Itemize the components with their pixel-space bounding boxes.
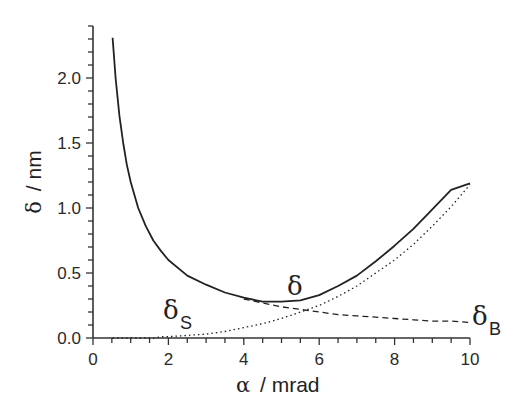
y-tick-label: 1.5: [57, 134, 81, 153]
x-tick-label: 0: [88, 350, 97, 369]
chart-canvas: 02468100.00.51.01.52.0 δ δ S δ B α / mra…: [0, 0, 524, 417]
y-tick-label: 1.0: [57, 199, 81, 218]
x-axis-title-symbol: α: [236, 373, 250, 397]
x-tick-label: 2: [164, 350, 173, 369]
y-axis-title-symbol: δ: [22, 201, 46, 214]
x-tick-label: 6: [314, 350, 323, 369]
delta-s-label: δ: [163, 295, 179, 325]
x-tick-label: 10: [461, 350, 480, 369]
y-axis-title-unit: / nm: [22, 150, 45, 191]
delta-b-label: δ: [472, 301, 488, 331]
x-axis-title: α / mrad: [236, 373, 320, 397]
y-axis-title: δ / nm: [22, 150, 46, 213]
axes: 02468100.00.51.01.52.0: [57, 26, 479, 369]
x-tick-label: 4: [239, 350, 248, 369]
x-axis-title-unit: / mrad: [260, 373, 320, 396]
x-tick-label: 8: [390, 350, 399, 369]
y-tick-label: 2.0: [57, 69, 81, 88]
y-tick-label: 0.0: [57, 329, 81, 348]
delta-b-subscript: B: [489, 319, 501, 339]
curve-delta: [113, 38, 470, 302]
delta-s-subscript: S: [180, 313, 192, 333]
delta-curve-label: δ: [287, 271, 303, 301]
y-tick-label: 0.5: [57, 264, 81, 283]
